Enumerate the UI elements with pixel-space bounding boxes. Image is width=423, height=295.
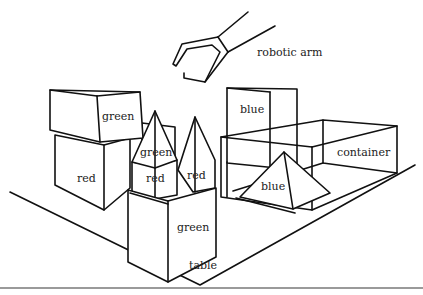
bottom-divider	[0, 287, 423, 289]
robotic-arm-label: robotic arm	[257, 47, 322, 58]
red-pyramid-label: red	[187, 170, 206, 181]
red-block-left-label: red	[77, 173, 96, 184]
table-label: table	[189, 260, 217, 271]
green-block-top-label: green	[102, 111, 134, 122]
blue-pyramid-label: blue	[261, 181, 285, 192]
blue-block-label: blue	[240, 104, 264, 115]
green-block-front-label: green	[177, 222, 209, 233]
red-block-small-label: red	[146, 173, 165, 184]
container-label: container	[337, 147, 390, 158]
green-pyramid-label: green	[140, 147, 172, 158]
